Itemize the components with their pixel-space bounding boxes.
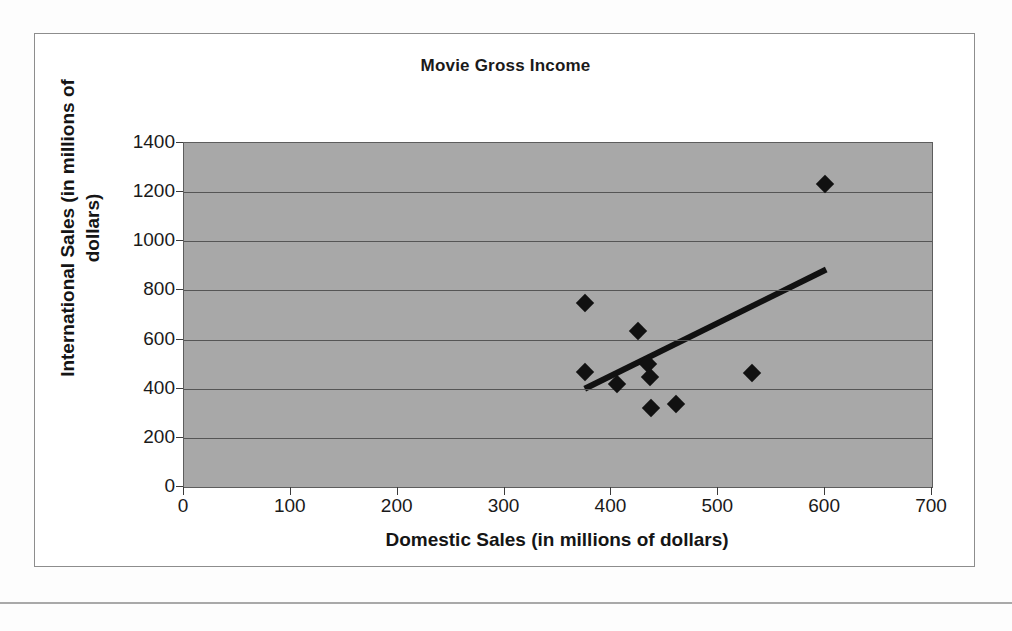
- x-tick-mark: [504, 487, 505, 495]
- y-tick-mark: [176, 437, 183, 438]
- page-divider-rule: [0, 602, 1012, 604]
- gridline: [184, 438, 932, 439]
- y-tick-mark: [176, 388, 183, 389]
- x-tick-mark: [290, 487, 291, 495]
- x-tick-label: 500: [682, 495, 752, 517]
- y-tick-mark: [176, 240, 183, 241]
- x-tick-label: 700: [896, 495, 966, 517]
- x-tick-mark: [824, 487, 825, 495]
- y-tick-mark: [176, 339, 183, 340]
- y-axis-tick-labels: 0200400600800100012001400: [109, 142, 175, 486]
- y-tick-label: 800: [113, 278, 175, 300]
- y-tick-label: 200: [113, 426, 175, 448]
- gridline: [184, 192, 932, 193]
- y-tick-mark: [176, 142, 183, 143]
- gridline: [184, 340, 932, 341]
- x-tick-mark: [931, 487, 932, 495]
- y-axis-title-line-2: dollars): [80, 63, 105, 393]
- x-tick-label: 200: [362, 495, 432, 517]
- y-tick-label: 1000: [113, 229, 175, 251]
- chart-frame: Movie Gross Income 020040060080010001200…: [34, 33, 975, 567]
- x-tick-mark: [183, 487, 184, 495]
- x-tick-mark: [717, 487, 718, 495]
- x-tick-label: 600: [789, 495, 859, 517]
- y-axis-title: International Sales (in millions of doll…: [55, 63, 107, 393]
- x-tick-label: 300: [469, 495, 539, 517]
- page-canvas: Movie Gross Income 020040060080010001200…: [0, 0, 1012, 631]
- gridline: [184, 389, 932, 390]
- x-axis-title: Domestic Sales (in millions of dollars): [183, 529, 931, 551]
- y-tick-mark: [176, 191, 183, 192]
- x-tick-label: 0: [148, 495, 218, 517]
- chart-title: Movie Gross Income: [35, 56, 976, 76]
- y-tick-label: 1200: [113, 180, 175, 202]
- trendline: [184, 143, 932, 487]
- y-tick-label: 400: [113, 377, 175, 399]
- gridline: [184, 290, 932, 291]
- plot-inner: [184, 143, 932, 487]
- x-tick-label: 100: [255, 495, 325, 517]
- y-tick-mark: [176, 289, 183, 290]
- x-tick-label: 400: [575, 495, 645, 517]
- y-tick-mark: [176, 486, 183, 487]
- y-tick-label: 0: [113, 475, 175, 497]
- x-tick-mark: [397, 487, 398, 495]
- plot-area: [183, 142, 933, 488]
- y-tick-label: 600: [113, 328, 175, 350]
- gridline: [184, 241, 932, 242]
- y-axis-title-line-1: International Sales (in millions of: [55, 63, 80, 393]
- y-tick-label: 1400: [113, 131, 175, 153]
- x-tick-mark: [610, 487, 611, 495]
- x-axis-tick-labels: 0100200300400500600700: [183, 495, 931, 525]
